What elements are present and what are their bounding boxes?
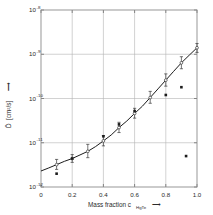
data-point-open <box>86 150 89 153</box>
x-tick-label: 0.6 <box>130 191 139 198</box>
data-point-open <box>196 46 199 49</box>
y-tick-label: 10 <box>29 139 36 146</box>
y-tick-exponent: -11 <box>37 137 44 142</box>
data-point-open <box>102 140 105 143</box>
y-tick-label: 10 <box>29 183 36 190</box>
svg-text:Mass fraction c: Mass fraction c <box>88 201 132 208</box>
y-tick-label: 10 <box>29 6 36 13</box>
svg-text:⟶: ⟶ <box>152 201 161 208</box>
x-tick-label: 0 <box>39 191 43 198</box>
svg-text:⟶: ⟶ <box>5 82 12 91</box>
svg-text:D̃: D̃ <box>5 123 12 128</box>
data-point-open <box>55 163 58 166</box>
data-point-open <box>164 79 167 82</box>
data-point-filled <box>55 172 58 175</box>
data-point-open <box>149 96 152 99</box>
diffusion-coefficient-plot: 10-810-910-1010-1110-12 00.20.40.60.81.0… <box>0 0 213 215</box>
data-point-open <box>133 112 136 115</box>
chart-figure: 10-810-910-1010-1110-12 00.20.40.60.81.0… <box>0 0 213 215</box>
x-tick-label: 0.4 <box>99 191 108 198</box>
y-tick-exponent: -9 <box>37 49 41 54</box>
data-point-filled <box>185 155 188 158</box>
data-point-filled <box>118 123 121 126</box>
y-tick-label: 10 <box>29 95 36 102</box>
x-tick-label: 0.8 <box>161 191 170 198</box>
svg-text:[cm²/s]: [cm²/s] <box>5 101 13 120</box>
y-tick-label: 10 <box>29 50 36 57</box>
data-point-filled <box>165 94 168 97</box>
x-tick-label: 1.0 <box>193 191 202 198</box>
data-point-filled <box>133 110 136 113</box>
data-point-open <box>180 61 183 64</box>
data-point-filled <box>71 157 74 160</box>
x-tick-label: 0.2 <box>68 191 77 198</box>
y-tick-exponent: -10 <box>37 93 44 98</box>
data-point-filled <box>180 86 183 89</box>
y-tick-exponent: -12 <box>37 182 44 187</box>
svg-text:HgTe: HgTe <box>136 205 147 210</box>
y-tick-exponent: -8 <box>37 5 41 10</box>
data-point-open <box>118 126 121 129</box>
data-point-filled <box>102 135 105 138</box>
